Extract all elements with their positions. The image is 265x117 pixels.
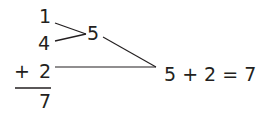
addend-2: 2 [39,62,51,81]
plus-sign: + [14,62,30,81]
line-5-to-equation [103,37,156,67]
line-4-to-5 [55,34,86,41]
equation-text: 5 + 2 = 7 [164,65,256,84]
sum-7: 7 [39,92,51,111]
addend-1: 1 [39,7,51,26]
addend-4: 4 [38,34,50,53]
line-1-to-5 [55,23,86,34]
partial-sum-5: 5 [87,24,99,43]
addition-diagram: 1 4 5 + 2 7 5 + 2 = 7 [0,0,265,117]
